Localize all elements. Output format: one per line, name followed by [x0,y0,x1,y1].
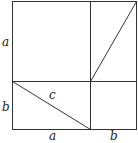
label-left-b: b [2,100,10,114]
label-bottom-a: a [49,129,56,143]
diagonal-top-right [91,2,137,82]
label-left-a: a [2,35,9,49]
proof-diagram: a b c a b [0,0,138,143]
label-bottom-b: b [110,129,118,143]
label-hypotenuse-c: c [49,88,56,102]
outer-square [13,2,137,130]
